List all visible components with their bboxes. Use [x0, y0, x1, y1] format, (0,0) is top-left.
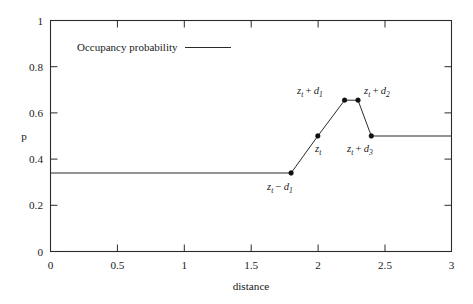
- occupancy-probability-chart: 0 0.2 0.4 0.6 0.8 1 0 0.5 1 1.5 2 2.5 3 …: [0, 0, 473, 304]
- x-tick-label-1-5: 1.5: [244, 259, 258, 271]
- annotation-zt-plus-d2-termsub: 2: [386, 90, 390, 99]
- y-tick-label-0: 0: [37, 246, 43, 258]
- x-tick-label-2-5: 2.5: [378, 259, 392, 271]
- y-tick-label-0-2: 0.2: [29, 199, 43, 211]
- y-axis-title: p: [21, 130, 27, 142]
- x-tick-label-1: 1: [182, 259, 188, 271]
- x-tick-label-2: 2: [315, 259, 321, 271]
- x-tick-label-0-5: 0.5: [110, 259, 124, 271]
- x-tick-label-3: 3: [449, 259, 455, 271]
- marker-zt: [315, 134, 320, 139]
- annotation-zt-plus-d2-op: +: [372, 85, 378, 96]
- y-tick-label-0-8: 0.8: [29, 61, 43, 73]
- marker-zt-plus-d2: [356, 98, 361, 103]
- y-tick-label-1: 1: [37, 15, 43, 27]
- annotation-zt-minus-d1-termsub: 1: [289, 186, 293, 195]
- annotation-zt-plus-d3-op: +: [355, 143, 361, 154]
- annotation-zt-plus-d1-termsub: 1: [319, 90, 323, 99]
- y-tick-label-0-6: 0.6: [29, 107, 43, 119]
- legend-label-occupancy-probability: Occupancy probability: [77, 41, 178, 53]
- chart-background: [0, 0, 473, 304]
- x-tick-label-0: 0: [48, 259, 54, 271]
- annotation-zt-minus-d1-op: −: [275, 181, 281, 192]
- marker-zt-minus-d1: [289, 171, 294, 176]
- chart-svg: 0 0.2 0.4 0.6 0.8 1 0 0.5 1 1.5 2 2.5 3 …: [0, 0, 473, 304]
- annotation-zt-plus-d3-termsub: 3: [368, 148, 373, 157]
- x-axis-title: distance: [233, 280, 270, 292]
- y-tick-label-0-4: 0.4: [29, 153, 43, 165]
- marker-zt-plus-d3: [369, 134, 374, 139]
- annotation-zt-plus-d1-op: +: [305, 85, 311, 96]
- marker-zt-plus-d1: [342, 98, 347, 103]
